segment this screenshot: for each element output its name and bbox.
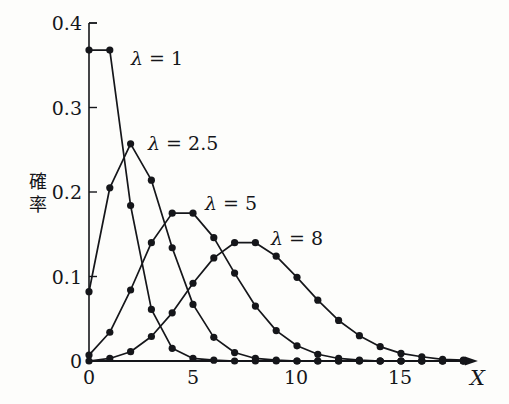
data-point-marker — [85, 357, 92, 364]
data-point-marker — [85, 288, 92, 295]
equals-glyph-1: = — [149, 47, 165, 69]
data-point-marker — [127, 286, 134, 293]
lambda-glyph-2: λ — [148, 132, 160, 154]
data-point-marker — [314, 357, 321, 364]
data-point-marker — [231, 239, 238, 246]
data-point-marker — [106, 329, 113, 336]
data-point-marker — [85, 46, 92, 53]
data-point-marker — [356, 332, 363, 339]
lambda-value-1: 1 — [171, 47, 183, 69]
data-point-marker — [189, 280, 196, 287]
data-point-marker — [293, 274, 300, 281]
data-point-marker — [148, 239, 155, 246]
data-point-marker — [231, 349, 238, 356]
data-point-marker — [273, 253, 280, 260]
x-axis-name: X — [470, 366, 485, 390]
x-tick-label-15: 15 — [382, 368, 418, 387]
data-point-marker — [127, 348, 134, 355]
lambda-glyph-1: λ — [131, 47, 143, 69]
data-point-marker — [252, 355, 259, 362]
y-tick-label-0.1: 0.1 — [40, 268, 82, 287]
axis-group — [89, 23, 478, 366]
data-point-marker — [356, 357, 363, 364]
data-point-marker — [231, 357, 238, 364]
data-point-marker — [169, 210, 176, 217]
equals-glyph-3: = — [223, 192, 239, 214]
data-point-marker — [127, 140, 134, 147]
data-point-marker — [169, 345, 176, 352]
data-point-marker — [397, 350, 404, 357]
data-point-marker — [418, 353, 425, 360]
y-axis-name-char-2: 率 — [29, 194, 47, 215]
data-point-marker — [335, 355, 342, 362]
y-tick-label-0.4: 0.4 — [40, 14, 82, 33]
lambda-value-2: 2.5 — [188, 132, 218, 154]
data-point-marker — [210, 357, 217, 364]
x-tick-label-0: 0 — [74, 368, 104, 387]
series-group — [85, 46, 467, 364]
series-line — [89, 50, 463, 361]
data-point-marker — [293, 357, 300, 364]
y-axis-name: 確 率 — [26, 170, 50, 216]
data-point-marker — [127, 202, 134, 209]
lambda-glyph-3: λ — [205, 192, 217, 214]
data-point-marker — [148, 306, 155, 313]
data-point-marker — [460, 357, 467, 364]
data-point-marker — [210, 234, 217, 241]
data-point-marker — [293, 342, 300, 349]
poisson-distribution-figure: 0.4 0.3 0.2 0.1 0 0 5 10 15 X 確 率 λ = 1 … — [0, 0, 509, 404]
data-point-marker — [189, 210, 196, 217]
data-point-marker — [252, 239, 259, 246]
series-8 — [85, 239, 467, 365]
data-point-marker — [252, 302, 259, 309]
x-tick-label-5: 5 — [178, 368, 208, 387]
data-point-marker — [273, 357, 280, 364]
x-tick-label-10: 10 — [278, 368, 314, 387]
series-label-lambda-2.5: λ = 2.5 — [148, 134, 218, 153]
data-point-marker — [210, 334, 217, 341]
lambda-value-4: 8 — [311, 227, 323, 249]
equals-glyph-2: = — [166, 132, 182, 154]
data-point-marker — [106, 46, 113, 53]
data-point-marker — [314, 297, 321, 304]
data-point-marker — [189, 355, 196, 362]
data-point-marker — [210, 254, 217, 261]
data-point-marker — [397, 357, 404, 364]
series-label-lambda-5: λ = 5 — [205, 194, 257, 213]
data-point-marker — [273, 327, 280, 334]
data-point-marker — [231, 270, 238, 277]
data-point-marker — [148, 333, 155, 340]
data-point-marker — [314, 351, 321, 358]
data-point-marker — [106, 355, 113, 362]
series-label-lambda-1: λ = 1 — [131, 49, 183, 68]
data-point-marker — [439, 356, 446, 363]
lambda-value-3: 5 — [245, 192, 257, 214]
data-point-marker — [377, 357, 384, 364]
data-point-marker — [377, 343, 384, 350]
data-point-marker — [106, 184, 113, 191]
equals-glyph-4: = — [289, 227, 305, 249]
lambda-glyph-4: λ — [271, 227, 283, 249]
data-point-marker — [169, 309, 176, 316]
y-axis-name-char-1: 確 — [29, 171, 47, 192]
data-point-marker — [169, 244, 176, 251]
series-label-lambda-8: λ = 8 — [271, 229, 323, 248]
series-1 — [85, 46, 467, 364]
series-line — [89, 243, 463, 361]
data-point-marker — [335, 317, 342, 324]
y-tick-label-0.3: 0.3 — [40, 99, 82, 118]
data-point-marker — [189, 301, 196, 308]
data-point-marker — [148, 177, 155, 184]
